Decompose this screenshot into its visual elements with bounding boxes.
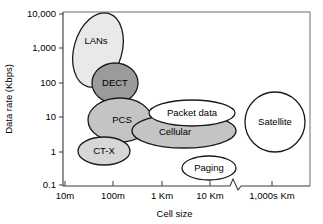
- bubble-paging[interactable]: Paging: [182, 156, 236, 180]
- x-axis-ticks: [65, 181, 272, 186]
- bubble-satellite[interactable]: Satellite: [245, 92, 305, 152]
- y-axis-ticks: [59, 14, 63, 185]
- axis-break-zigzag-icon: [230, 179, 241, 190]
- x-axis-title: Cell size: [157, 208, 193, 219]
- bubble-label: Paging: [194, 162, 224, 173]
- x-axis: 10m100m1 Km10 Km1,000s Km Cell size: [56, 179, 310, 219]
- chart-bubbles: LANsDECTPCSCT-XCellularPacket dataPaging…: [64, 7, 305, 180]
- chart-figure: 10,0001,0001001010.1 Data rate (Kbps) 10…: [0, 0, 323, 224]
- bubble-label: Cellular: [159, 126, 191, 137]
- x-tick-label: 100m: [101, 190, 125, 201]
- x-tick-label: 10 Km: [196, 190, 224, 201]
- y-tick-label: 10: [45, 111, 56, 122]
- bubble-label: CT-X: [93, 145, 115, 156]
- y-axis: 10,0001,0001001010.1 Data rate (Kbps): [3, 8, 63, 190]
- bubble-packet-data[interactable]: Packet data: [149, 100, 235, 126]
- x-axis-tick-labels: 10m100m1 Km10 Km1,000s Km: [56, 190, 295, 201]
- x-tick-label: 1,000s Km: [249, 190, 294, 201]
- y-tick-label: 1: [51, 146, 56, 157]
- y-tick-label: 0.1: [43, 179, 56, 190]
- x-tick-label: 1 Km: [151, 190, 173, 201]
- bubble-ct-x[interactable]: CT-X: [78, 137, 130, 165]
- bubble-label: Packet data: [167, 107, 218, 118]
- x-tick-label: 10m: [56, 190, 75, 201]
- bubble-label: Satellite: [258, 116, 292, 127]
- y-axis-tick-labels: 10,0001,0001001010.1: [27, 8, 56, 190]
- bubble-label: PCS: [112, 114, 132, 125]
- y-tick-label: 1,000: [32, 42, 56, 53]
- y-tick-label: 100: [40, 77, 56, 88]
- cell-size-vs-data-rate-chart: 10,0001,0001001010.1 Data rate (Kbps) 10…: [0, 0, 323, 224]
- bubble-label: DECT: [102, 77, 128, 88]
- bubble-label: LANs: [84, 35, 107, 46]
- y-axis-title: Data rate (Kbps): [3, 64, 14, 134]
- y-tick-label: 10,000: [27, 8, 56, 19]
- bubble-dect[interactable]: DECT: [92, 63, 138, 103]
